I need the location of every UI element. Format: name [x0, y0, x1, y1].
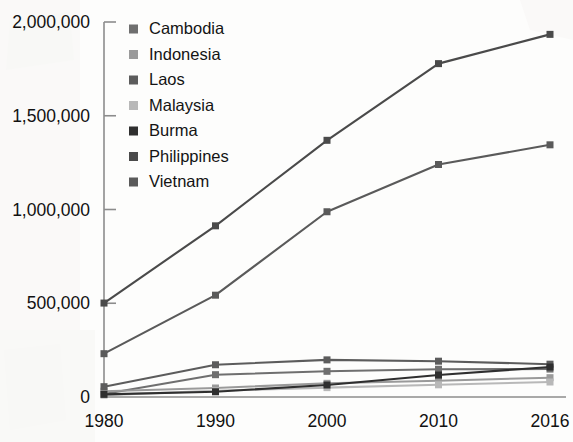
legend-item-laos[interactable]: Laos — [129, 70, 185, 88]
data-point-marker — [101, 300, 108, 307]
y-axis-tick-label: 2,000,000 — [12, 12, 90, 32]
legend-item-cambodia[interactable]: Cambodia — [129, 19, 225, 37]
data-point-marker — [435, 381, 442, 388]
data-point-marker — [435, 372, 442, 379]
legend-item-label: Burma — [149, 121, 198, 139]
data-point-marker — [212, 388, 219, 395]
data-point-marker — [324, 382, 331, 389]
data-point-marker — [547, 141, 554, 148]
x-axis-tick-label: 2010 — [419, 411, 458, 431]
x-axis-tick-label: 2000 — [308, 411, 347, 431]
data-point-marker — [547, 379, 554, 386]
data-point-marker — [212, 222, 219, 229]
x-axis-tick-labels: 19801990200020102016 — [85, 411, 570, 431]
legend-swatch-icon — [129, 76, 138, 85]
data-point-marker — [324, 137, 331, 144]
legend-item-burma[interactable]: Burma — [129, 121, 198, 139]
data-point-marker — [324, 368, 331, 375]
legend-item-label: Cambodia — [149, 19, 225, 37]
legend-item-label: Laos — [149, 70, 185, 88]
data-point-marker — [547, 31, 554, 38]
x-axis-tick-label: 1980 — [85, 411, 124, 431]
chart-legend: CambodiaIndonesiaLaosMalaysiaBurmaPhilip… — [129, 19, 229, 190]
legend-swatch-icon — [129, 152, 138, 161]
data-point-marker — [212, 361, 219, 368]
y-axis-tick-label: 1,500,000 — [12, 106, 90, 126]
x-axis-tick-label: 1990 — [196, 411, 235, 431]
legend-item-label: Vietnam — [149, 172, 209, 190]
data-point-marker — [324, 356, 331, 363]
data-point-marker — [435, 60, 442, 67]
legend-item-label: Malaysia — [149, 96, 215, 114]
data-point-marker — [101, 391, 108, 398]
x-axis-tick-label: 2016 — [531, 411, 570, 431]
data-point-marker — [101, 383, 108, 390]
y-axis-tick-label: 0 — [80, 387, 90, 407]
data-point-marker — [212, 371, 219, 378]
data-point-marker — [101, 350, 108, 357]
legend-swatch-icon — [129, 101, 138, 110]
data-point-marker — [324, 208, 331, 215]
data-point-marker — [435, 161, 442, 168]
legend-item-malaysia[interactable]: Malaysia — [129, 96, 215, 114]
legend-item-indonesia[interactable]: Indonesia — [129, 45, 221, 63]
legend-swatch-icon — [129, 178, 138, 187]
legend-swatch-icon — [129, 25, 138, 34]
y-axis-tick-label: 500,000 — [27, 293, 91, 313]
line-chart: 0500,0001,000,0001,500,0002,000,000 1980… — [0, 0, 573, 442]
chart-container: 0500,0001,000,0001,500,0002,000,000 1980… — [0, 0, 573, 442]
y-axis-ticks — [104, 22, 116, 303]
legend-swatch-icon — [129, 127, 138, 136]
y-axis-tick-label: 1,000,000 — [12, 200, 90, 220]
data-point-marker — [435, 358, 442, 365]
scan-artifacts — [0, 0, 573, 442]
data-point-marker — [212, 292, 219, 299]
legend-item-philippines[interactable]: Philippines — [129, 147, 229, 165]
legend-item-label: Philippines — [149, 147, 229, 165]
legend-item-label: Indonesia — [149, 45, 221, 63]
data-point-marker — [547, 364, 554, 371]
legend-item-vietnam[interactable]: Vietnam — [129, 172, 209, 190]
legend-swatch-icon — [129, 50, 138, 59]
